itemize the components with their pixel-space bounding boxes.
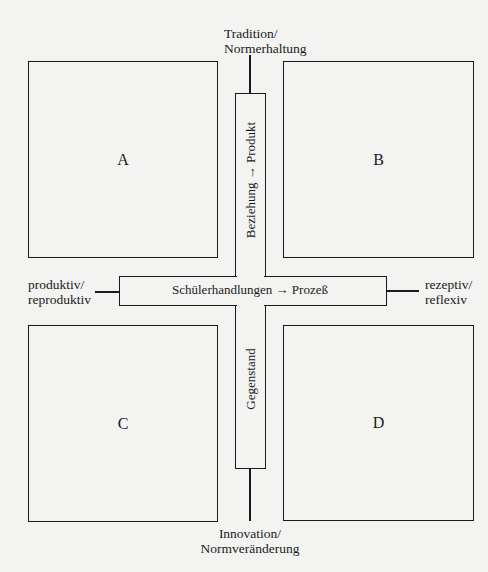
- axis-label-right-line2: reflexiv: [425, 292, 472, 307]
- quadrant-d-label: D: [373, 414, 385, 432]
- horizontal-bar-label: Schülerhandlungen → Prozeß: [172, 282, 328, 298]
- quadrant-a-label: A: [117, 151, 129, 169]
- axis-label-top-line1: Tradition/: [224, 26, 306, 41]
- connector-left: [95, 291, 120, 293]
- axis-label-top: Tradition/ Normerhaltung: [224, 26, 306, 56]
- axis-label-bottom-line1: Innovation/: [200, 526, 300, 541]
- quadrant-d: D: [283, 325, 474, 521]
- axis-label-left-line2: reproduktiv: [28, 292, 91, 307]
- vertical-bar-upper-label: Beziehung → Produkt: [243, 122, 259, 238]
- quadrant-c-label: C: [118, 415, 129, 433]
- axis-label-right: rezeptiv/ reflexiv: [425, 277, 472, 307]
- axis-label-left: produktiv/ reproduktiv: [28, 277, 91, 307]
- quadrant-a: A: [28, 61, 218, 258]
- axis-label-bottom-line2: Normveränderung: [200, 541, 300, 556]
- quadrant-c: C: [28, 325, 218, 522]
- connector-bottom: [249, 467, 251, 521]
- quadrant-b-label: B: [373, 151, 384, 169]
- vertical-bar-lower-label: Gegenstand: [243, 348, 259, 409]
- axis-label-right-line1: rezeptiv/: [425, 277, 472, 292]
- connector-top: [249, 55, 251, 94]
- quadrant-b: B: [283, 61, 474, 258]
- axis-label-left-line1: produktiv/: [28, 277, 91, 292]
- axis-label-bottom: Innovation/ Normveränderung: [200, 526, 300, 556]
- axis-label-top-line2: Normerhaltung: [224, 41, 306, 56]
- connector-right: [386, 290, 419, 292]
